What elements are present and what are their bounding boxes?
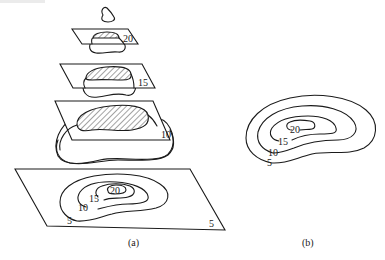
panel-b-caption: (b) [302,237,314,249]
base-plane [15,169,225,230]
base-label-20: 20 [110,185,120,196]
plan-label-15: 15 [278,136,288,147]
panel-b: 20 15 10 5 (b) [246,95,376,249]
base-label-15: 15 [89,193,99,204]
plan-label-5: 5 [267,157,272,168]
figure-canvas: 20 15 10 5 10 15 20 5 [0,0,385,260]
slice-15-label: 15 [138,77,148,88]
base-corner-label-5: 5 [209,218,214,229]
slice-20-label: 20 [123,33,133,44]
panel-a-caption: (a) [128,237,139,249]
peak-cap [102,7,115,22]
slice-10-label: 10 [161,129,171,140]
plan-label-20: 20 [290,124,300,135]
base-label-5: 5 [67,215,72,226]
panel-a: 20 15 10 5 10 15 20 5 [15,7,225,249]
base-label-10: 10 [78,202,88,213]
contour-figure: 20 15 10 5 10 15 20 5 [0,0,385,260]
